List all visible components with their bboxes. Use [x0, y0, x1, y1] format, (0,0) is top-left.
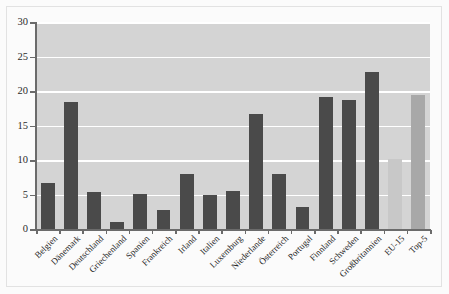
y-axis-tick-label: 30 [6, 17, 28, 28]
bar [226, 191, 240, 229]
bar [272, 174, 286, 229]
bar [203, 195, 217, 229]
bar [342, 100, 356, 229]
gridline [36, 22, 430, 24]
bar [64, 102, 78, 229]
bar [296, 207, 310, 229]
y-axis-tick-label: 15 [6, 121, 28, 132]
y-axis-tick [30, 126, 35, 128]
bar [249, 114, 263, 229]
bar [365, 72, 379, 229]
bar [180, 174, 194, 229]
x-axis-tick [36, 230, 38, 234]
bar [110, 222, 124, 229]
x-axis-tick [221, 230, 223, 234]
x-axis-tick [291, 230, 293, 234]
x-axis-tick [198, 230, 200, 234]
x-axis-tick [129, 230, 131, 234]
y-axis-tick [30, 195, 35, 197]
y-axis-tick-label: 20 [6, 86, 28, 97]
x-axis-tick [106, 230, 108, 234]
bar [319, 97, 333, 229]
y-axis-tick-label: 10 [6, 155, 28, 166]
x-axis-tick [82, 230, 84, 234]
y-axis-tick-label: 5 [6, 190, 28, 201]
y-axis-tick [30, 57, 35, 59]
gridline [36, 57, 430, 59]
y-axis-tick [30, 229, 35, 231]
y-axis-tick-label: 0 [6, 224, 28, 235]
y-axis-tick [30, 22, 35, 24]
y-axis-tick [30, 160, 35, 162]
bar [411, 95, 425, 229]
x-axis-tick [407, 230, 409, 234]
x-axis-line [35, 229, 431, 231]
x-axis-tick [360, 230, 362, 234]
x-axis-tick [314, 230, 316, 234]
x-axis-tick [175, 230, 177, 234]
x-axis-tick [384, 230, 386, 234]
x-axis-tick [245, 230, 247, 234]
x-axis-tick [268, 230, 270, 234]
bar [388, 159, 402, 229]
y-axis-line [35, 22, 37, 230]
x-axis-tick [337, 230, 339, 234]
bar [87, 192, 101, 229]
bar [133, 194, 147, 229]
y-axis-tick-label: 25 [6, 52, 28, 63]
x-axis-tick [152, 230, 154, 234]
bar [41, 183, 55, 229]
bar [157, 210, 171, 229]
chart-figure: 051015202530 BelgienDänemarkDeutschlandG… [0, 0, 449, 294]
x-axis-tick [430, 230, 432, 234]
x-axis-tick [59, 230, 61, 234]
y-axis-tick [30, 91, 35, 93]
